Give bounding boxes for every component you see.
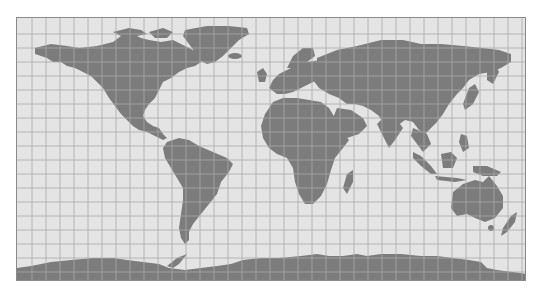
landmass-java xyxy=(435,176,467,182)
landmass-british-isles xyxy=(257,68,267,82)
world-map: World map xyxy=(16,17,526,281)
landmass-new-guinea xyxy=(473,166,501,176)
map-canvas xyxy=(17,18,526,281)
landmass-antarctic-peninsula xyxy=(167,254,187,268)
landmass-south-america xyxy=(163,138,233,244)
landmass-sumatra xyxy=(413,152,437,174)
landmass-japan xyxy=(463,84,479,110)
landmass-philippines xyxy=(459,134,469,152)
landmass-australia xyxy=(451,176,503,222)
landmasses xyxy=(17,26,526,281)
landmass-arctic-islands-2 xyxy=(149,28,173,38)
landmass-iceland xyxy=(228,53,242,59)
